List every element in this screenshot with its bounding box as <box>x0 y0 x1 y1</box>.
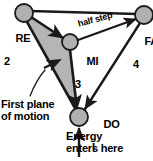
diagram-container: RE 2 FA 4 MI 3 DO I half step First plan… <box>0 0 153 161</box>
node-label-re: RE 2 <box>4 22 30 89</box>
node-label-re-number: 2 <box>4 56 30 67</box>
node-label-fa-number: 4 <box>133 59 153 70</box>
energy-enters-here-label: Energy enters here <box>66 131 123 154</box>
edge-re-fa <box>30 11 137 14</box>
node-label-fa: FA 4 <box>133 25 153 92</box>
node-label-mi-name: MI <box>86 55 98 67</box>
node-fa[interactable] <box>135 6 153 24</box>
node-re[interactable] <box>15 4 33 22</box>
node-label-do-name: DO <box>103 118 119 130</box>
node-label-mi: MI 3 <box>75 45 98 112</box>
node-label-mi-number: 3 <box>75 79 98 90</box>
node-label-re-name: RE <box>15 32 30 44</box>
node-label-fa-name: FA <box>144 35 153 47</box>
first-plane-label: First plane of motion <box>1 99 54 122</box>
first-plane-leader-line <box>30 70 45 96</box>
